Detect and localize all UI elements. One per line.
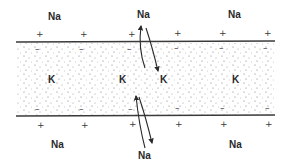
na-label-bottom-center: Na xyxy=(138,150,151,161)
minus-sign: – xyxy=(174,43,179,53)
k-label: K xyxy=(160,74,168,85)
plus-sign: + xyxy=(264,28,272,38)
minus-sign: – xyxy=(265,103,270,113)
plus-sign: + xyxy=(174,28,182,38)
membrane-diagram: Na Na Na + + + + + + – – – – – – K K K K… xyxy=(0,0,289,168)
minus-sign: – xyxy=(220,103,225,113)
minus-sign: – xyxy=(128,104,133,114)
membrane-top xyxy=(16,41,275,42)
k-label: K xyxy=(48,74,56,85)
minus-sign: – xyxy=(79,44,84,54)
na-label-bottom-left: Na xyxy=(51,139,64,150)
minus-sign: – xyxy=(79,104,84,114)
plus-sign: + xyxy=(36,29,44,39)
plus-sign: + xyxy=(265,119,273,129)
membrane-bottom xyxy=(16,115,275,116)
plus-sign: + xyxy=(175,119,183,129)
minus-sign: – xyxy=(35,44,40,54)
na-label-top-left: Na xyxy=(48,11,61,22)
plus-sign: + xyxy=(81,120,89,130)
plus-sign: + xyxy=(220,119,228,129)
minus-sign: – xyxy=(35,104,40,114)
plus-sign: + xyxy=(219,28,227,38)
plus-sign: + xyxy=(80,29,88,39)
k-label: K xyxy=(232,74,240,85)
plus-sign: + xyxy=(128,29,136,39)
plus-sign: + xyxy=(37,120,45,130)
k-label: K xyxy=(119,74,127,85)
minus-sign: – xyxy=(175,103,180,113)
minus-sign: – xyxy=(263,43,268,53)
plus-sign: + xyxy=(129,119,137,129)
na-label-bottom-right: Na xyxy=(229,139,242,150)
minus-sign: – xyxy=(219,43,224,53)
minus-sign: – xyxy=(127,44,132,54)
na-label-top-right: Na xyxy=(228,9,241,20)
na-label-top-center: Na xyxy=(137,9,150,20)
